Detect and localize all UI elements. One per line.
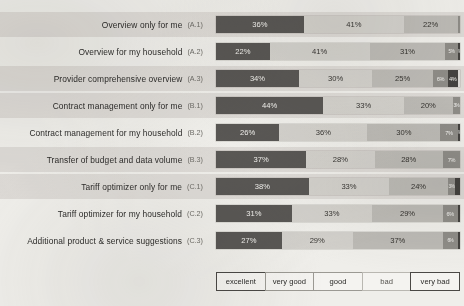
segment-value: 41%	[312, 47, 327, 56]
segment-value: 44%	[262, 101, 277, 110]
bar-segment: 22%	[404, 16, 458, 33]
legend-item-very-good[interactable]: very good	[265, 272, 315, 291]
row-label: Additional product & service suggestions	[27, 236, 182, 246]
row-code: (C.1)	[187, 182, 203, 191]
bar-segment	[458, 16, 460, 33]
chart-row: Provider comprehensive overview(A.3)34%3…	[0, 65, 464, 92]
bar-segment: 33%	[309, 178, 390, 195]
segment-value: 30%	[328, 74, 343, 83]
chart-row: Tariff optimizer for my household(C.2)31…	[0, 200, 464, 227]
bar-segment: 29%	[372, 205, 443, 222]
bar-segment: 37%	[353, 232, 443, 249]
row-label-group: Contract management for my household(B.2…	[0, 119, 205, 146]
segment-value: 22%	[235, 47, 250, 56]
segment-value: 1%	[458, 130, 460, 135]
segment-value: 29%	[400, 209, 415, 218]
segment-value: 36%	[316, 128, 331, 137]
chart-legend: excellentvery goodgoodbadvery bad	[216, 272, 460, 291]
segment-value: 27%	[241, 236, 256, 245]
chart-row: Tariff optimizer only for me(C.1)38%33%2…	[0, 173, 464, 200]
bar-segment: 38%	[216, 178, 309, 195]
stacked-bar: 37%28%28%7%	[216, 151, 460, 168]
segment-value: 7%	[445, 130, 453, 136]
segment-value: 29%	[310, 236, 325, 245]
bar-segment: 27%	[216, 232, 282, 249]
bar-segment: 37%	[216, 151, 306, 168]
bar-segment: 36%	[216, 16, 304, 33]
stacked-bar: 26%36%30%7%1%	[216, 124, 460, 141]
row-label: Tariff optimizer only for me	[81, 182, 182, 192]
bar-segment	[458, 232, 460, 249]
bar-segment	[458, 205, 460, 222]
bar-segment: 26%	[216, 124, 279, 141]
bar-segment: 4%	[448, 70, 458, 87]
segment-value: 22%	[423, 20, 438, 29]
bar-segment: 41%	[304, 16, 404, 33]
row-code: (A.3)	[187, 74, 203, 83]
segment-value: 3%	[449, 184, 455, 189]
bar-segment: 31%	[370, 43, 446, 60]
bar-segment: 29%	[282, 232, 353, 249]
legend-item-bad[interactable]: bad	[362, 272, 412, 291]
row-label-group: Tariff optimizer for my household(C.2)	[0, 200, 205, 227]
legend-item-excellent[interactable]: excellent	[216, 272, 266, 291]
bar-segment: 41%	[270, 43, 370, 60]
bar-segment: 6%	[433, 70, 448, 87]
bar-segment: 7%	[443, 151, 460, 168]
bar-segment	[455, 178, 460, 195]
row-label-group: Provider comprehensive overview(A.3)	[0, 65, 205, 92]
bar-segment: 30%	[299, 70, 372, 87]
row-code: (B.3)	[187, 155, 203, 164]
bar-segment: 25%	[372, 70, 433, 87]
segment-value: 37%	[254, 155, 269, 164]
row-label: Tariff optimizer for my household	[58, 209, 182, 219]
row-code: (C.3)	[187, 236, 203, 245]
bar-segment: 20%	[404, 97, 453, 114]
row-label: Provider comprehensive overview	[54, 74, 183, 84]
segment-value: 37%	[390, 236, 405, 245]
segment-value: 6%	[447, 238, 453, 243]
segment-value: 20%	[421, 101, 436, 110]
row-code: (B.1)	[187, 101, 203, 110]
row-label-group: Transfer of budget and data volume(B.3)	[0, 146, 205, 173]
row-label-group: Contract management only for me(B.1)	[0, 92, 205, 119]
segment-value: 36%	[252, 20, 267, 29]
segment-value: 1%	[458, 49, 460, 54]
bar-segment: 30%	[367, 124, 440, 141]
segment-value: 6%	[437, 76, 445, 82]
stacked-bar-chart: Overview only for me(A.1)36%41%22%Overvi…	[0, 0, 464, 306]
chart-row: Additional product & service suggestions…	[0, 227, 464, 254]
segment-value: 31%	[400, 47, 415, 56]
bar-segment: 24%	[389, 178, 448, 195]
segment-value: 24%	[411, 182, 426, 191]
legend-item-good[interactable]: good	[313, 272, 363, 291]
chart-row: Overview only for me(A.1)36%41%22%	[0, 11, 464, 38]
segment-value: 33%	[324, 209, 339, 218]
row-label: Contract management only for me	[53, 101, 183, 111]
segment-value: 7%	[448, 157, 456, 163]
bar-segment: 33%	[323, 97, 404, 114]
bar-segment: 28%	[375, 151, 443, 168]
segment-value: 33%	[356, 101, 371, 110]
bar-segment: 44%	[216, 97, 323, 114]
segment-value: 31%	[246, 209, 261, 218]
bar-segment: 22%	[216, 43, 270, 60]
stacked-bar: 38%33%24%3%	[216, 178, 460, 195]
legend-item-very-bad[interactable]: very bad	[410, 272, 460, 291]
bar-segment: 1%	[458, 43, 460, 60]
row-label-group: Overview only for me(A.1)	[0, 11, 205, 38]
stacked-bar: 22%41%31%5%1%	[216, 43, 460, 60]
row-label: Contract management for my household	[29, 128, 182, 138]
chart-row: Contract management for my household(B.2…	[0, 119, 464, 146]
segment-value: 30%	[396, 128, 411, 137]
bar-segment: 34%	[216, 70, 299, 87]
bar-segment: 28%	[306, 151, 374, 168]
bar-segment: 1%	[458, 124, 460, 141]
stacked-bar: 31%33%29%6%	[216, 205, 460, 222]
stacked-bar: 44%33%20%3%	[216, 97, 460, 114]
row-label: Transfer of budget and data volume	[47, 155, 183, 165]
stacked-bar: 34%30%25%6%4%	[216, 70, 460, 87]
bar-segment: 5%	[445, 43, 457, 60]
bar-segment: 3%	[448, 178, 455, 195]
row-label-group: Tariff optimizer only for me(C.1)	[0, 173, 205, 200]
